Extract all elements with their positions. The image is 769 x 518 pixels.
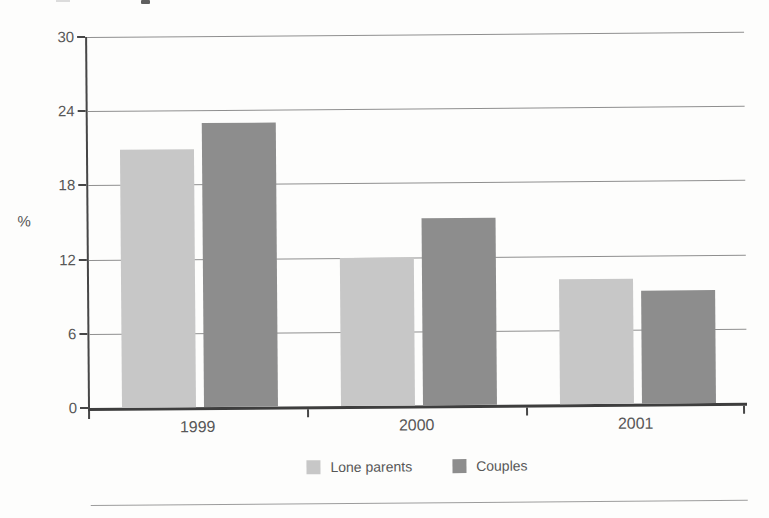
bar-group-2000 [306,34,528,407]
y-axis-unit-label: % [17,212,30,229]
x-axis-label-2001: 2001 [526,414,745,434]
bar-group-1999 [87,35,309,408]
bottom-divider [91,500,748,506]
y-tick-6 [79,333,87,335]
bar-lone-parents-2000 [339,257,414,406]
y-tick-label-0: 0 [43,400,77,416]
legend-label-lone-parents: Lone parents [330,458,412,475]
x-tick-2 [526,408,528,416]
x-axis-label-1999: 1999 [88,417,307,437]
y-tick-label-30: 30 [40,29,74,45]
bar-couples-2001 [641,290,716,404]
legend-label-couples: Couples [476,458,527,474]
scan-skew-wrapper: % 0612182430 1999 2000 2001 Lone parents… [0,0,769,518]
legend-swatch-couples [452,459,466,473]
bar-lone-parents-2001 [559,279,634,405]
y-tick-0 [80,407,88,409]
y-tick-18 [78,184,86,186]
bar-couples-1999 [201,123,277,408]
scanned-chart-page: % 0612182430 1999 2000 2001 Lone parents… [0,0,769,518]
bar-lone-parents-1999 [119,149,195,408]
bar-couples-2000 [421,218,496,406]
chart-legend: Lone parents Couples [88,456,745,477]
grouped-bar-chart: % 0612182430 1999 2000 2001 Lone parents… [0,0,769,518]
y-tick-label-12: 12 [42,252,76,268]
y-axis: 0612182430 [0,0,766,1]
legend-swatch-lone-parents [306,460,320,474]
plot-area [85,32,747,411]
x-axis-ticks [0,0,766,1]
y-tick-label-24: 24 [41,103,75,119]
y-tick-label-18: 18 [41,177,75,193]
x-axis-label-2000: 2000 [307,416,526,436]
y-tick-24 [78,110,86,112]
x-tick-0 [88,411,90,419]
y-tick-12 [79,259,87,261]
y-tick-label-6: 6 [42,326,76,342]
y-tick-30 [77,36,85,38]
x-axis-labels: 1999 2000 2001 [88,414,745,437]
bar-group-2001 [525,32,747,405]
x-tick-3 [743,406,745,414]
x-tick-1 [307,409,309,417]
